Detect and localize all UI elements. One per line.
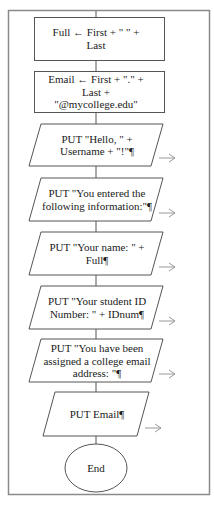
flowchart: Full ← First + " " +LastEmail ← First + … bbox=[0, 0, 214, 505]
node-text-line: Email ← First + "." + bbox=[48, 73, 143, 85]
node-text-line: Full ← First + " " + bbox=[53, 26, 140, 38]
node-text-line: PUT "Your student ID bbox=[48, 295, 146, 307]
node-put-name: PUT "Your name: " +Full¶ bbox=[29, 232, 175, 275]
node-text-line: assigned a college email bbox=[43, 355, 150, 367]
node-put-entered: PUT "You entered thefollowing informatio… bbox=[29, 178, 175, 221]
node-end: End bbox=[65, 444, 127, 492]
node-text-line: "@mycollege.edu" bbox=[54, 98, 138, 110]
nodes: Full ← First + " " +LastEmail ← First + … bbox=[29, 18, 175, 493]
node-put-hello: PUT "Hello, " +Username + "!"¶ bbox=[29, 124, 175, 166]
node-text-line: End bbox=[87, 462, 105, 474]
node-text-line: Number: " + IDnum¶ bbox=[50, 308, 144, 320]
node-text-line: PUT Email¶ bbox=[70, 408, 125, 420]
node-text-line: Username + "!"¶ bbox=[60, 145, 134, 157]
node-text-line: address: "¶ bbox=[73, 367, 121, 379]
node-text-line: PUT "You have been bbox=[51, 342, 144, 354]
node-assign-full: Full ← First + " " +Last bbox=[35, 18, 165, 61]
node-text-line: PUT "Your name: " + bbox=[49, 241, 144, 253]
node-text-line: following information:"¶ bbox=[42, 200, 152, 212]
node-put-student-id: PUT "Your student IDNumber: " + IDnum¶ bbox=[29, 286, 175, 329]
node-assign-email: Email ← First + "." +Last +"@mycollege.e… bbox=[35, 72, 165, 113]
node-text-line: Last bbox=[87, 39, 106, 51]
node-text-line: PUT "You entered the bbox=[49, 187, 146, 199]
node-put-email: PUT Email¶ bbox=[43, 392, 161, 436]
node-text-line: PUT "Hello, " + bbox=[61, 133, 132, 145]
node-text-line: Full¶ bbox=[86, 254, 109, 266]
node-put-assigned: PUT "You have beenassigned a college ema… bbox=[29, 339, 175, 382]
node-text-line: Last + bbox=[82, 86, 110, 98]
